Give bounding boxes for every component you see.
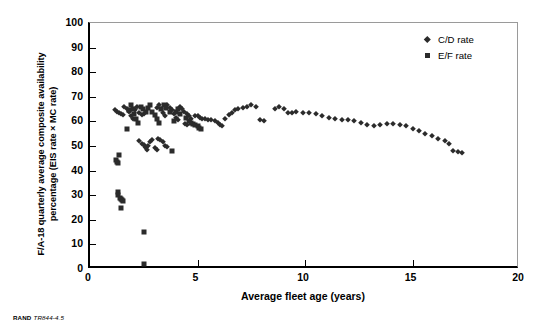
square-marker-icon [421,53,433,58]
x-axis-tick [413,260,414,267]
data-point-ef-rate [124,126,129,131]
data-point-cd-rate [332,116,338,122]
data-point-ef-rate [115,161,120,166]
data-point-ef-rate [169,148,174,153]
y-axis-tick-label: 30 [52,188,83,200]
data-point-ef-rate [148,103,153,108]
data-point-ef-rate [198,126,203,131]
y-axis-tick-label: 90 [52,41,83,53]
y-axis-tick [89,97,96,98]
y-axis-tick-label: 80 [52,65,83,77]
data-point-cd-rate [409,126,415,132]
data-point-cd-rate [351,118,357,124]
data-point-cd-rate [313,111,319,117]
data-point-cd-rate [377,122,383,128]
y-axis-tick-label: 20 [52,213,83,225]
y-axis-tick [89,195,96,196]
legend-item-ef-rate: E/F rate [421,49,474,61]
y-axis-tick [89,244,96,245]
y-axis-tick [89,171,96,172]
y-axis-tick [89,121,96,122]
legend-label-cd-rate: C/D rate [438,34,474,45]
x-axis-tick-label: 20 [498,271,538,283]
data-point-cd-rate [120,112,126,118]
data-point-ef-rate [141,262,146,267]
data-point-cd-rate [154,147,160,153]
source-figure-id: TR844-4.5 [33,314,64,321]
y-axis-title-line-1: F/A-18 quarterly average composite avail… [35,53,48,256]
y-axis-tick [89,220,96,221]
x-axis-tick [198,260,199,267]
x-axis-tick-label: 5 [176,271,216,283]
x-axis-tick [305,260,306,267]
data-point-ef-rate [171,119,176,124]
y-axis-tick-labels: 0102030405060708090100 [52,22,83,268]
data-point-cd-rate [396,122,402,128]
data-point-cd-rate [403,123,409,129]
y-axis-tick-label: 10 [52,237,83,249]
data-point-cd-rate [446,140,452,146]
x-axis-tick-label: 15 [391,271,431,283]
y-axis-tick-label: 50 [52,139,83,151]
x-axis-tick-labels: 05101520 [88,271,518,287]
x-axis-title: Average fleet age (years) [88,290,518,302]
data-point-cd-rate [319,113,325,119]
data-point-ef-rate [167,109,172,114]
legend-label-ef-rate: E/F rate [438,50,472,61]
data-point-ef-rate [141,230,146,235]
data-point-cd-rate [219,123,225,129]
diamond-marker-icon [421,37,433,42]
data-point-ef-rate [117,152,122,157]
data-point-ef-rate [119,205,124,210]
data-point-cd-rate [459,150,465,156]
data-point-cd-rate [261,118,267,124]
data-point-ef-rate [178,112,183,117]
x-axis-tick-label: 10 [283,271,323,283]
y-axis-tick-label: 100 [52,16,83,28]
data-point-cd-rate [293,108,299,114]
y-axis-tick-label: 70 [52,90,83,102]
legend-item-cd-rate: C/D rate [421,33,474,45]
source-publisher: RAND [13,314,31,321]
data-point-ef-rate [136,120,141,125]
data-point-cd-rate [390,121,396,127]
data-point-ef-rate [156,120,161,125]
y-axis-tick [89,146,96,147]
data-point-cd-rate [306,110,312,116]
source-caption: RANDTR844-4.5 [13,314,64,321]
data-point-cd-rate [162,113,168,119]
chart-legend: C/D rate E/F rate [421,33,474,61]
y-axis-tick-label: 60 [52,114,83,126]
x-axis-tick-label: 0 [68,271,108,283]
data-point-cd-rate [422,131,428,137]
y-axis-tick [89,72,96,73]
data-point-cd-rate [326,115,332,121]
data-point-cd-rate [435,136,441,142]
data-point-cd-rate [364,122,370,128]
scatter-chart-figure: F/A-18 quarterly average composite avail… [0,0,542,334]
y-axis-tick-label: 40 [52,164,83,176]
data-point-ef-rate [121,199,126,204]
y-axis-tick [89,48,96,49]
data-point-cd-rate [338,117,344,123]
